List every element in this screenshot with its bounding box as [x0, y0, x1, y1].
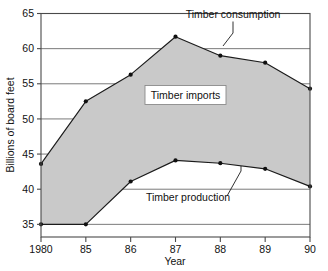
x-tick-label-89: 89 [259, 243, 271, 255]
x-tick-label-86: 86 [125, 243, 137, 255]
y-tick-label-50: 50 [22, 113, 34, 125]
marker-production-87 [173, 158, 177, 162]
x-tick-label-85: 85 [80, 243, 92, 255]
timber-area-chart: 35404550556065 1980858687888990 Billions… [0, 0, 328, 271]
marker-consumption-85 [84, 99, 88, 103]
marker-consumption-89 [263, 61, 267, 65]
x-tick-label-88: 88 [214, 243, 226, 255]
marker-production-86 [129, 179, 133, 183]
annotation-timber-imports: Timber imports [151, 89, 221, 101]
x-axis-title: Year [164, 255, 186, 267]
marker-consumption-86 [129, 73, 133, 77]
y-tick-label-40: 40 [22, 183, 34, 195]
y-tick-label-45: 45 [22, 148, 34, 160]
marker-production-88 [218, 161, 222, 165]
marker-production-85 [84, 222, 88, 226]
x-tick-label-1980: 1980 [29, 243, 53, 255]
y-tick-label-55: 55 [22, 77, 34, 89]
chart-container: 35404550556065 1980858687888990 Billions… [0, 0, 328, 271]
annotation-timber-production: Timber production [146, 191, 230, 203]
y-axis-title: Billions of board feet [4, 77, 16, 172]
x-tick-label-90: 90 [304, 243, 316, 255]
marker-consumption-88 [218, 54, 222, 58]
y-tick-label-35: 35 [22, 218, 34, 230]
y-tick-label-65: 65 [22, 7, 34, 19]
annotation-timber-consumption: Timber consumption [186, 8, 281, 20]
x-tick-label-87: 87 [170, 243, 182, 255]
marker-production-89 [263, 167, 267, 171]
marker-consumption-87 [173, 35, 177, 39]
y-tick-label-60: 60 [22, 42, 34, 54]
